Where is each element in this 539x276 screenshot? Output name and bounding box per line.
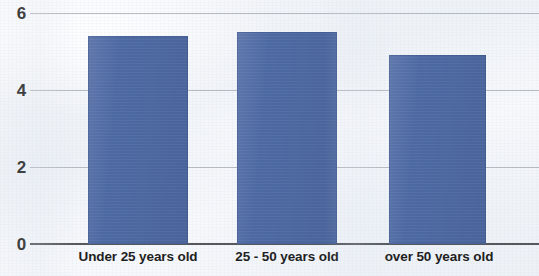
x-axis-label-under-25-years-old: Under 25 years old <box>68 250 208 264</box>
gridline-6 <box>30 13 539 14</box>
bar-under-25-years-old <box>88 36 188 244</box>
bar-25-50-years-old <box>237 32 337 244</box>
y-axis-tick-label-4: 4 <box>0 82 26 99</box>
y-axis-tick-label-6: 6 <box>0 5 26 22</box>
y-axis-tick-label-0: 0 <box>0 236 26 253</box>
bar-over-50-years-old <box>389 55 486 244</box>
y-axis-tick-label-2: 2 <box>0 159 26 176</box>
x-axis-label-over-50-years-old: over 50 years old <box>369 250 509 264</box>
x-axis-label-25-50-years-old: 25 - 50 years old <box>219 250 355 264</box>
bar-chart: 6 4 2 0 Under 25 years old 25 - 50 years… <box>0 0 539 276</box>
